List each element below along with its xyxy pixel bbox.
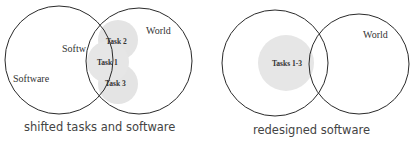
world-label: World [146, 25, 171, 36]
software-inner-label: Softw [62, 43, 87, 54]
task-3-label: Task 3 [105, 79, 126, 88]
world-label: World [363, 29, 388, 40]
caption-shifted: shifted tasks and software [24, 120, 175, 134]
world-circle [309, 14, 409, 114]
task-1-label: Task 1 [97, 58, 118, 67]
caption-redesigned: redesigned software [253, 123, 370, 137]
diagram-shifted: Software Softw World Task 2 Task 1 Task … [5, 6, 192, 114]
diagram-redesigned: World Tasks 1-3 [222, 10, 409, 116]
software-label: Software [13, 73, 50, 84]
task-2-label: Task 2 [106, 37, 127, 46]
tasks-label: Tasks 1-3 [272, 59, 302, 68]
